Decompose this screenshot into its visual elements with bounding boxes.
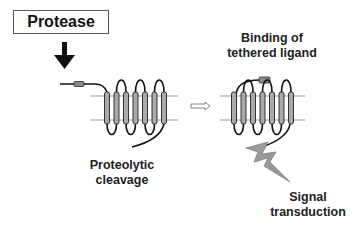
- intracellular-loop: [126, 124, 136, 135]
- transmembrane-helix: [241, 92, 246, 124]
- intracellular-loop: [234, 124, 244, 135]
- intracellular-loop: [145, 124, 155, 135]
- transmembrane-helix: [143, 92, 148, 124]
- transmembrane-helix: [133, 92, 138, 124]
- hollow-right-arrow-icon: [191, 102, 210, 110]
- c-terminal-tail: [132, 124, 164, 147]
- transmembrane-helix: [251, 92, 256, 124]
- extracellular-loop: [282, 80, 292, 92]
- transmembrane-helix: [162, 92, 167, 124]
- intracellular-loop: [272, 124, 282, 135]
- receptor-right: [220, 77, 305, 147]
- transmembrane-helix: [124, 92, 129, 124]
- transmembrane-helix: [260, 92, 265, 124]
- extracellular-loop: [136, 80, 146, 92]
- transmembrane-helix: [289, 92, 294, 124]
- transmembrane-helix: [114, 92, 119, 124]
- transmembrane-helix: [232, 92, 237, 124]
- tethered-ligand: [74, 82, 84, 87]
- transmembrane-helix: [105, 92, 110, 124]
- receptor-left: [60, 80, 178, 147]
- intracellular-loop: [253, 124, 263, 135]
- extracellular-loop: [155, 80, 165, 92]
- n-terminal-tail-bound: [236, 80, 260, 96]
- diagram-canvas: [0, 0, 356, 225]
- transmembrane-helix: [279, 92, 284, 124]
- intracellular-loop: [107, 124, 117, 135]
- protease-arrow-icon: [54, 42, 75, 69]
- lightning-bolt-icon: [246, 142, 290, 182]
- extracellular-loop: [117, 80, 127, 92]
- transmembrane-helix: [152, 92, 157, 124]
- transmembrane-helix: [270, 92, 275, 124]
